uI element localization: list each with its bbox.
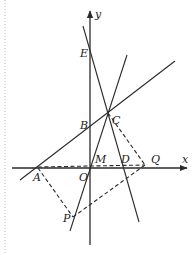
segment-ap bbox=[38, 168, 73, 217]
point-label-a: A bbox=[32, 171, 41, 184]
point-label-q: Q bbox=[151, 153, 160, 166]
point-label-b: B bbox=[79, 119, 88, 132]
y-axis-label: y bbox=[94, 8, 102, 21]
point-label-e: E bbox=[79, 47, 88, 60]
x-axis-label: x bbox=[182, 153, 189, 166]
point-label-p: P bbox=[62, 212, 71, 225]
point-label-o: O bbox=[79, 171, 88, 184]
point-label-c: C bbox=[112, 114, 121, 127]
line-ecd bbox=[83, 26, 139, 222]
point-label-m: M bbox=[94, 153, 107, 166]
geometry-diagram: y x E B C M D Q A O P bbox=[0, 0, 196, 254]
point-label-d: D bbox=[120, 153, 130, 166]
